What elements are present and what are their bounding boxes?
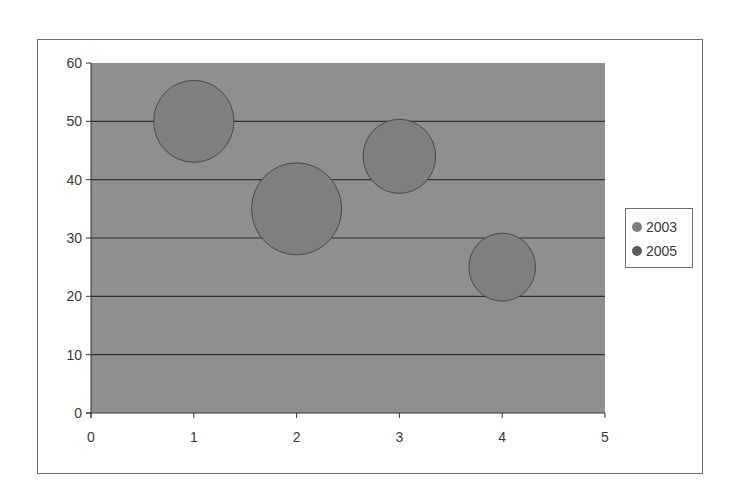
svg-text:10: 10: [66, 347, 82, 363]
x-axis-labels: 012345: [87, 429, 609, 445]
bubble-2003-x2: [252, 163, 342, 255]
svg-text:0: 0: [74, 405, 82, 421]
legend-item-2005: 2005: [632, 241, 677, 261]
legend-marker-icon: [632, 222, 642, 232]
bubble-2003-x1: [154, 80, 234, 162]
svg-text:40: 40: [66, 172, 82, 188]
svg-text:50: 50: [66, 113, 82, 129]
svg-text:3: 3: [396, 429, 404, 445]
legend-label: 2003: [646, 219, 677, 235]
svg-text:30: 30: [66, 230, 82, 246]
legend-marker-icon: [632, 246, 642, 256]
svg-text:20: 20: [66, 288, 82, 304]
svg-text:1: 1: [190, 429, 198, 445]
legend: 2003 2005: [625, 208, 693, 268]
bubble-2003-x3: [363, 119, 436, 193]
bubble-2003-x4: [469, 233, 536, 301]
svg-text:2: 2: [293, 429, 301, 445]
svg-text:4: 4: [498, 429, 506, 445]
legend-label: 2005: [646, 243, 677, 259]
svg-text:60: 60: [66, 55, 82, 71]
svg-text:5: 5: [601, 429, 609, 445]
bubble-chart: 0102030405060 012345: [0, 0, 733, 495]
svg-text:0: 0: [87, 429, 95, 445]
legend-item-2003: 2003: [632, 217, 677, 237]
y-axis-labels: 0102030405060: [66, 55, 82, 421]
